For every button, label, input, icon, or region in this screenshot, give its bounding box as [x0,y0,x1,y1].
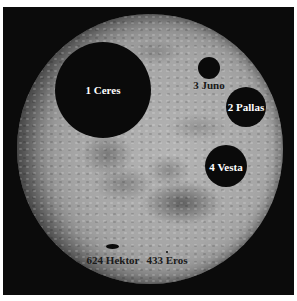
asteroid-juno-disc [198,57,220,79]
label-eros: 433 Eros [146,254,187,266]
asteroid-hektor-disc [106,244,119,249]
label-vesta: 4 Vesta [209,161,242,173]
label-ceres: 1 Ceres [86,84,121,96]
label-pallas: 2 Pallas [228,101,264,113]
label-hektor: 624 Hektor [87,254,140,266]
moon-image [17,14,283,284]
asteroid-eros-disc [166,251,168,253]
label-juno: 3 Juno [193,79,225,91]
